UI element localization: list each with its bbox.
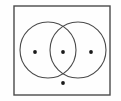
background-surface [0,0,121,101]
venn-diagram-canvas [0,0,121,101]
point-intersection [61,50,65,54]
venn-diagram-figure [0,0,121,101]
point-left-only [33,50,37,54]
point-right-only [89,50,93,54]
point-outside-circles [61,81,65,85]
